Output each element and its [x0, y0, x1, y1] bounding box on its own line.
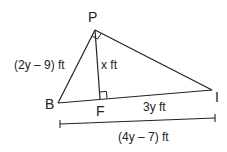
side-bi — [58, 90, 212, 103]
segment-fi-label: 3y ft — [143, 100, 166, 114]
vertex-label-b: B — [45, 96, 54, 112]
altitude-pf-label: x ft — [101, 58, 118, 72]
segment-bi-label: (4y – 7) ft — [118, 130, 169, 144]
altitude-pf — [95, 30, 100, 99]
measure-line-bi — [60, 118, 215, 124]
vertex-label-i: I — [215, 89, 219, 105]
side-pb-label: (2y – 9) ft — [14, 58, 65, 72]
triangle-diagram: P B F I (2y – 9) ft x ft 3y ft (4y – 7) … — [0, 0, 227, 152]
vertex-label-f: F — [96, 103, 105, 119]
vertex-label-p: P — [88, 9, 97, 25]
right-angle-mark-f — [99, 91, 107, 98]
